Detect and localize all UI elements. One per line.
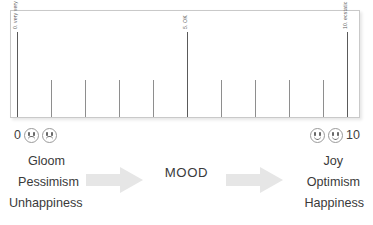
list-item: Happiness — [304, 194, 364, 212]
scale-tick-label-10: 10. ecstatic — [342, 2, 348, 29]
sad-face-icon — [24, 128, 39, 143]
happy-face-icon — [328, 128, 343, 143]
list-item: Joy — [323, 152, 364, 170]
scale-tick-7 — [255, 80, 256, 117]
eye-left — [46, 132, 48, 135]
sad-face-icon — [42, 128, 57, 143]
scale-tick-4 — [153, 80, 154, 117]
high-endpoint-group: 10 — [310, 128, 360, 143]
low-endpoint-number: 0 — [14, 129, 21, 142]
eye-right — [33, 132, 35, 135]
mood-scale-panel: 0. very very low 5. OK 10. ecstatic — [10, 10, 360, 118]
scale-tick-0: 0. very very low — [17, 32, 18, 117]
smile-mouth — [332, 135, 339, 139]
eye-left — [28, 132, 30, 135]
frown-mouth — [46, 136, 53, 140]
scale-tick-9 — [323, 80, 324, 117]
endpoints-row: 0 10 — [0, 128, 373, 150]
high-descriptor-list: Joy Optimism Happiness — [304, 152, 364, 212]
list-item: Optimism — [307, 173, 364, 191]
happy-face-icon — [310, 128, 325, 143]
low-endpoint-group: 0 — [14, 128, 57, 143]
high-endpoint-number: 10 — [346, 129, 360, 142]
frown-mouth — [28, 136, 35, 140]
low-descriptor-list: Gloom Pessimism Unhappiness — [9, 152, 83, 212]
scale-tick-1 — [51, 80, 52, 117]
scale-tick-10: 10. ecstatic — [347, 32, 348, 117]
arrow-right-icon — [226, 166, 284, 194]
scale-tick-5: 5. OK — [187, 32, 188, 117]
list-item: Unhappiness — [9, 194, 83, 212]
scale-tick-6 — [221, 80, 222, 117]
scale-tick-label-0: 0. very very low — [12, 0, 18, 29]
scale-tick-label-5: 5. OK — [182, 15, 188, 29]
scale-tick-8 — [289, 80, 290, 117]
smile-mouth — [314, 135, 321, 139]
scale-tick-2 — [85, 80, 86, 117]
scale-tick-3 — [119, 80, 120, 117]
descriptors-row: Gloom Pessimism Unhappiness MOOD Joy Opt… — [0, 152, 373, 225]
eye-right — [51, 132, 53, 135]
